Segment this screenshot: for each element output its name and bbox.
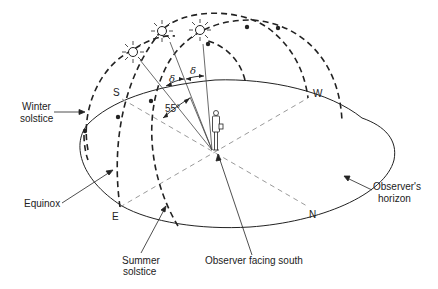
sight-lines (140, 42, 212, 150)
observer-facing-south-label: Observer facing south (205, 255, 303, 266)
sun-dot (149, 99, 153, 103)
winter-solstice-label-2: solstice (20, 113, 54, 124)
observer-figure (213, 111, 224, 151)
horizon-back-arc (88, 80, 362, 124)
sun-path-diagram: 55° δ δ S W E N Winter solstice Equinox … (0, 0, 438, 289)
sun-icon-summer (189, 19, 211, 41)
observers-horizon-label-1: Observer's (373, 181, 421, 192)
sun-dot (206, 42, 210, 46)
compass-north: N (309, 209, 316, 220)
summer-back-arc (205, 40, 245, 80)
summer-arrow-head (161, 206, 166, 212)
compass-east: E (112, 211, 119, 222)
winter-arrow-head (79, 110, 85, 115)
observers-horizon-label-2: horizon (378, 193, 411, 204)
sun-dot (276, 26, 280, 30)
latitude-angle-label: 55° (165, 103, 180, 114)
compass-south: S (113, 87, 120, 98)
observer-arrow-head (216, 154, 221, 161)
sun-dot (116, 115, 120, 119)
winter-solstice-label-1: Winter (22, 101, 52, 112)
sun-icon-equinox (151, 20, 173, 42)
sun-dot (83, 129, 87, 133)
compass-west: W (313, 88, 323, 99)
summer-solstice-label-1: Summer (122, 255, 160, 266)
declination-label-2: δ (190, 65, 196, 76)
equinox-label: Equinox (24, 198, 60, 209)
summer-solstice-label-2: solstice (123, 266, 157, 277)
sun-icon-winter (122, 41, 144, 63)
summer-solstice-path (152, 20, 342, 226)
sun-dot (245, 25, 249, 29)
declination-label-1: δ (169, 73, 175, 84)
horizon-arrow-head (344, 176, 350, 181)
